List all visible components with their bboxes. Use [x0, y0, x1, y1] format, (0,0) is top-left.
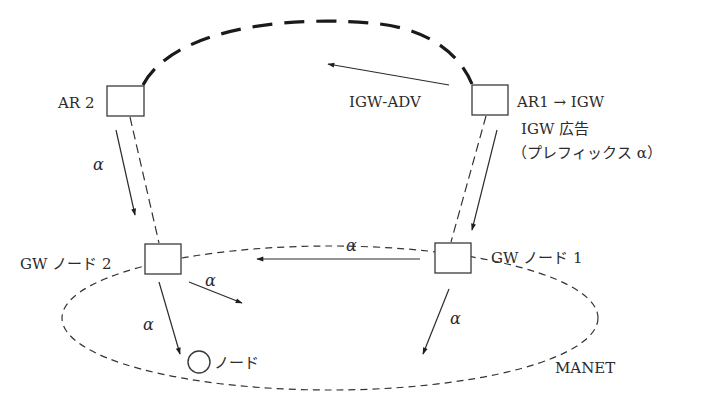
ar1-label: AR1 → IGW	[516, 93, 605, 111]
ar2-label: AR 2	[57, 94, 94, 112]
ar1-to-gw1-arrow	[472, 130, 497, 230]
node-label: ノード	[214, 354, 259, 372]
gw1-label: GW ノード 1	[491, 249, 582, 267]
ar2-router-box	[107, 86, 144, 116]
igw-ad-label: IGW 広告	[521, 120, 589, 138]
mobile-node-circle	[188, 351, 210, 373]
alpha-gw2-node: α	[143, 315, 154, 334]
gw1-node-box	[435, 243, 471, 273]
diagram-canvas: AR 2 AR1 → IGW IGW 広告 （プレフィックス α） IGW‐AD…	[0, 0, 712, 411]
alpha-gw2-right: α	[205, 271, 216, 290]
gw2-node-box	[145, 244, 181, 274]
alpha-ar2-gw2: α	[93, 155, 104, 174]
manet-label: MANET	[555, 359, 615, 377]
igw-adv-label: IGW‐ADV	[349, 93, 422, 111]
ar2-to-gw2-dashed	[130, 117, 159, 243]
alpha-gw1-gw2: α	[346, 236, 357, 255]
gw2-label: GW ノード 2	[20, 255, 111, 273]
gw1-down-arrow	[423, 289, 449, 354]
ar1-router-box	[472, 85, 508, 115]
alpha-gw1-down: α	[450, 309, 461, 328]
gw2-to-node-arrow	[159, 282, 180, 354]
ar-link-arc	[143, 21, 472, 85]
igw-adv-arrow	[328, 64, 449, 85]
prefix-label: （プレフィックス α）	[512, 144, 662, 162]
ar1-to-gw1-dashed	[451, 116, 486, 242]
ar2-to-gw2-arrow	[116, 130, 135, 215]
